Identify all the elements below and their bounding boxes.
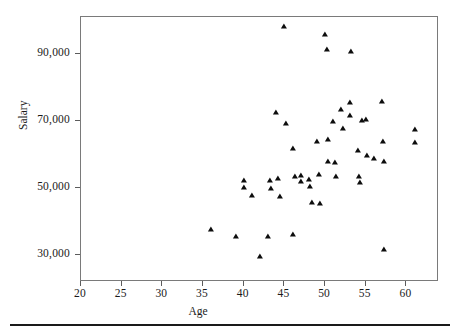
data-point-marker [357,179,363,184]
data-point-marker [241,177,247,182]
data-point-marker [332,159,338,164]
bottom-divider-rule [10,324,450,326]
y-axis-tick-label: 90,000 [37,47,70,59]
x-axis-tick-label: 20 [65,288,95,300]
x-axis-tick [365,281,366,286]
x-axis-tick-label: 60 [390,288,420,300]
y-axis-tick-label: 70,000 [37,114,70,126]
data-point-marker [348,49,354,54]
data-point-marker [412,140,418,145]
data-point-marker [276,194,282,199]
plot-area [81,17,437,280]
x-axis-tick-label: 25 [106,288,136,300]
data-point-marker [283,120,289,125]
x-axis-tick [121,281,122,286]
data-point-marker [347,112,353,117]
data-point-marker [371,156,377,161]
data-point-marker [249,193,255,198]
x-axis-tick-label: 45 [268,288,298,300]
y-axis-tick-label: 30,000 [37,248,70,260]
data-point-marker [273,110,279,115]
data-point-marker [355,147,361,152]
data-point-marker [340,125,346,130]
data-point-marker [298,178,304,183]
data-point-marker [290,145,296,150]
x-axis-tick-label: 40 [228,288,258,300]
data-point-marker [380,139,386,144]
data-point-marker [281,24,287,29]
data-point-marker [309,199,315,204]
data-point-marker [307,184,313,189]
data-point-marker [257,253,263,258]
x-axis-tick-label: 35 [187,288,217,300]
x-axis-tick-label: 30 [146,288,176,300]
y-axis-tick-label: 50,000 [37,181,70,193]
data-point-marker [275,176,281,181]
data-point-marker [346,100,352,105]
data-point-marker [325,158,331,163]
data-point-marker [363,116,369,121]
data-point-marker [381,159,387,164]
y-axis-title: Salary [17,101,29,130]
x-axis-tick [405,281,406,286]
data-point-marker [364,152,370,157]
data-point-marker [322,31,328,36]
data-point-marker [411,127,417,132]
data-point-marker [267,178,273,183]
data-point-marker [324,46,330,51]
data-point-marker [315,171,321,176]
x-axis-title-text: Age [188,305,207,317]
x-axis-tick [243,281,244,286]
x-axis-tick-label: 55 [350,288,380,300]
data-point-marker [381,247,387,252]
data-point-marker [306,177,312,182]
x-axis-tick [80,281,81,286]
data-point-marker [208,226,214,231]
data-point-marker [232,234,238,239]
data-point-marker [330,118,336,123]
data-point-marker [379,99,385,104]
data-point-marker [324,136,330,141]
data-point-marker [314,139,320,144]
data-point-marker [333,174,339,179]
data-point-marker [356,174,362,179]
x-axis-tick [324,281,325,286]
x-axis-tick [283,281,284,286]
data-point-marker [338,106,344,111]
x-axis-tick [202,281,203,286]
data-point-marker [317,201,323,206]
data-point-marker [241,184,247,189]
data-point-marker [265,234,271,239]
x-axis-tick [161,281,162,286]
plot-frame [80,16,438,281]
data-point-marker [267,186,273,191]
data-point-marker [298,172,304,177]
data-point-marker [289,231,295,236]
x-axis-title: Age [0,305,456,317]
x-axis-tick-label: 50 [309,288,339,300]
scatter-plot-figure: Salary 30,00050,00070,00090,000 20253035… [0,0,456,336]
